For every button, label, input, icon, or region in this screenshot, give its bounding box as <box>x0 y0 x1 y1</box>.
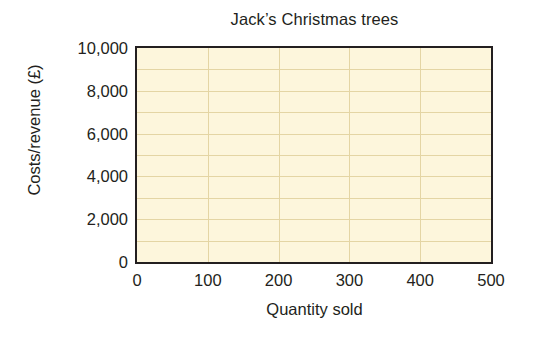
chart-figure: Jack’s Christmas trees Costs/revenue (£)… <box>0 0 536 345</box>
x-axis-title: Quantity sold <box>136 299 493 319</box>
x-axis-tick-label: 200 <box>239 270 319 290</box>
chart-title: Jack’s Christmas trees <box>136 9 493 29</box>
gridline-vertical <box>420 48 421 262</box>
x-axis-tick-label: 100 <box>168 270 248 290</box>
gridline-horizontal <box>137 241 491 242</box>
y-axis-tick-label: 4,000 <box>28 168 128 184</box>
x-axis-tick-label: 400 <box>380 270 460 290</box>
y-axis-tick-label: 8,000 <box>28 83 128 99</box>
gridline-horizontal <box>137 91 491 92</box>
gridline-horizontal <box>137 69 491 70</box>
gridline-horizontal <box>137 198 491 199</box>
y-axis-tick-label: 0 <box>28 254 128 270</box>
gridline-vertical <box>349 48 350 262</box>
gridline-vertical <box>208 48 209 262</box>
plot-area <box>135 46 493 264</box>
gridline-horizontal <box>137 176 491 177</box>
gridline-horizontal <box>137 112 491 113</box>
gridline-horizontal <box>137 134 491 135</box>
gridline-vertical <box>279 48 280 262</box>
gridline-horizontal <box>137 219 491 220</box>
y-axis-tick-label: 10,000 <box>28 40 128 56</box>
y-axis-tick-label: 6,000 <box>28 126 128 142</box>
x-axis-tick-label: 500 <box>451 270 531 290</box>
x-axis-tick-label: 0 <box>97 270 177 290</box>
gridline-horizontal <box>137 155 491 156</box>
y-axis-tick-labels: 02,0004,0006,0008,00010,000 <box>28 46 128 264</box>
x-axis-tick-labels: 0100200300400500 <box>135 270 493 292</box>
gridlines <box>137 48 491 262</box>
y-axis-tick-label: 2,000 <box>28 211 128 227</box>
x-axis-tick-label: 300 <box>309 270 389 290</box>
